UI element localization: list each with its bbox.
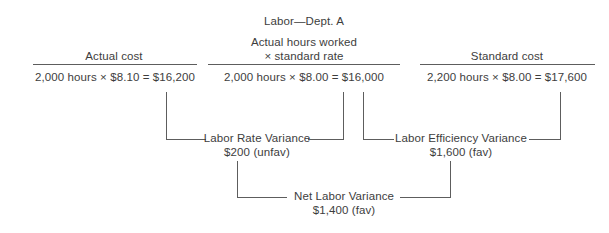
labor-rate-variance-left-stub xyxy=(166,139,206,140)
labor-rate-variance-right-leg xyxy=(343,92,344,140)
column-2-header-line1: Actual hours worked xyxy=(251,36,357,49)
column-2-formula: 2,000 hours × $8.00 = $16,000 xyxy=(224,71,384,84)
column-3-rule xyxy=(420,64,595,65)
labor-rate-variance-right-stub xyxy=(308,139,344,140)
labor-rate-variance-label: Labor Rate Variance xyxy=(204,132,311,145)
net-labor-variance-label: Net Labor Variance xyxy=(294,190,394,203)
net-labor-variance-right-leg xyxy=(450,161,451,198)
column-1-formula: 2,000 hours × $8.10 = $16,200 xyxy=(35,71,195,84)
net-labor-variance-left-stub xyxy=(237,197,287,198)
column-2-rule xyxy=(208,64,400,65)
column-1-rule xyxy=(33,64,197,65)
net-labor-variance-left-leg xyxy=(237,161,238,198)
column-3-header: Standard cost xyxy=(471,50,543,63)
labor-efficiency-variance-left-leg xyxy=(363,92,364,140)
net-labor-variance-right-stub xyxy=(400,197,451,198)
diagram-title: Labor—Dept. A xyxy=(264,15,344,28)
column-2-header-line2: × standard rate xyxy=(264,50,343,63)
labor-variance-diagram: Labor—Dept. A Actual cost 2,000 hours × … xyxy=(0,0,609,233)
labor-efficiency-variance-right-stub xyxy=(529,139,561,140)
column-1-header: Actual cost xyxy=(85,50,142,63)
labor-rate-variance-amount: $200 (unfav) xyxy=(224,146,290,159)
labor-efficiency-variance-label: Labor Efficiency Variance xyxy=(395,132,527,145)
labor-rate-variance-left-leg xyxy=(166,92,167,140)
column-3-formula: 2,200 hours × $8.00 = $17,600 xyxy=(427,71,587,84)
labor-efficiency-variance-right-leg xyxy=(560,92,561,140)
labor-efficiency-variance-left-stub xyxy=(363,139,394,140)
labor-efficiency-variance-amount: $1,600 (fav) xyxy=(430,146,493,159)
net-labor-variance-amount: $1,400 (fav) xyxy=(313,204,376,217)
